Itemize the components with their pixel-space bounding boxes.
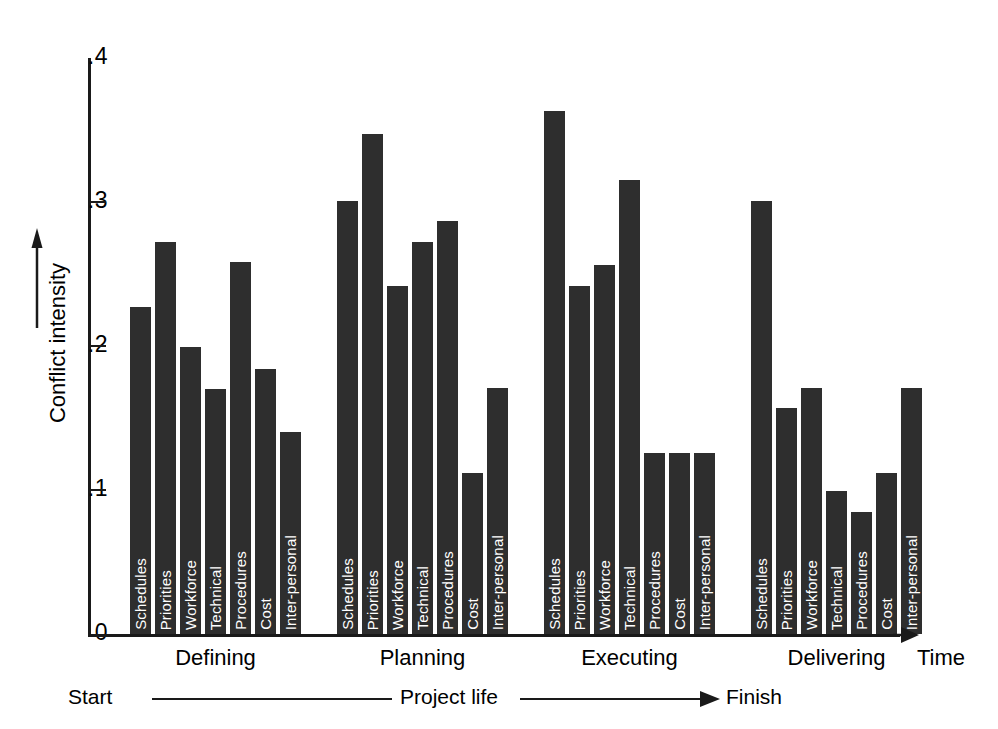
- bar[interactable]: Workforce: [801, 388, 822, 634]
- x-axis-group-label: Executing: [544, 645, 715, 671]
- bar-label: Procedures: [231, 551, 251, 630]
- bar-label: Priorities: [156, 570, 176, 630]
- x-axis-group-label: Defining: [130, 645, 301, 671]
- project-life-band: Start Project life Finish: [0, 685, 998, 729]
- bar-label: Inter-personal: [902, 535, 922, 630]
- y-axis-title: Conflict intensity: [45, 223, 71, 463]
- x-axis-group-label: Planning: [337, 645, 508, 671]
- bar-label: Priorities: [777, 570, 797, 630]
- bar-label: Procedures: [645, 551, 665, 630]
- bar[interactable]: Cost: [462, 473, 483, 634]
- bar-label: Priorities: [570, 570, 590, 630]
- bar[interactable]: Schedules: [751, 201, 772, 634]
- bar-label: Schedules: [545, 558, 565, 630]
- bar[interactable]: Schedules: [337, 201, 358, 634]
- bar[interactable]: Cost: [255, 369, 276, 634]
- bar[interactable]: Schedules: [544, 111, 565, 634]
- footer-middle-label: Project life: [400, 685, 498, 709]
- bar[interactable]: Technical: [412, 242, 433, 634]
- bar[interactable]: Inter-personal: [487, 388, 508, 634]
- bar-label: Technical: [413, 566, 433, 630]
- bar-label: Schedules: [131, 558, 151, 630]
- bar[interactable]: Workforce: [387, 286, 408, 634]
- bar-label: Cost: [670, 598, 690, 630]
- bar-label: Inter-personal: [488, 535, 508, 630]
- bar-label: Schedules: [338, 558, 358, 630]
- bar[interactable]: Technical: [205, 389, 226, 634]
- bar-label: Inter-personal: [281, 535, 301, 630]
- bar-label: Workforce: [181, 560, 201, 630]
- bar[interactable]: Priorities: [362, 134, 383, 634]
- bar[interactable]: Procedures: [437, 221, 458, 634]
- bar[interactable]: Priorities: [776, 408, 797, 634]
- bar[interactable]: Cost: [876, 473, 897, 634]
- bar[interactable]: Procedures: [851, 512, 872, 634]
- conflict-intensity-bar-chart: .4.3.2.10 Conflict intensity SchedulesPr…: [0, 0, 998, 729]
- bar[interactable]: Inter-personal: [901, 388, 922, 634]
- bar-label: Priorities: [363, 570, 383, 630]
- bar-label: Workforce: [388, 560, 408, 630]
- x-axis-line: [88, 634, 900, 637]
- bar[interactable]: Schedules: [130, 307, 151, 634]
- bar[interactable]: Technical: [826, 491, 847, 634]
- bar-label: Cost: [463, 598, 483, 630]
- bar[interactable]: Cost: [669, 453, 690, 634]
- y-axis-up-arrow-icon: [30, 228, 44, 328]
- bar-label: Inter-personal: [695, 535, 715, 630]
- footer-finish-label: Finish: [726, 685, 782, 709]
- bar[interactable]: Priorities: [569, 286, 590, 634]
- x-axis-group-label: Delivering: [751, 645, 922, 671]
- bar-label: Cost: [256, 598, 276, 630]
- plot-area: SchedulesPrioritiesWorkforceTechnicalPro…: [88, 58, 978, 634]
- bar-label: Procedures: [852, 551, 872, 630]
- bar-label: Procedures: [438, 551, 458, 630]
- footer-right-arrow-icon: [696, 688, 720, 710]
- bar-label: Technical: [827, 566, 847, 630]
- footer-rule-right: [520, 698, 700, 700]
- bar-label: Schedules: [752, 558, 772, 630]
- bar-label: Workforce: [802, 560, 822, 630]
- footer-rule-left: [152, 698, 392, 700]
- bar[interactable]: Workforce: [594, 265, 615, 634]
- bar[interactable]: Procedures: [644, 453, 665, 634]
- bar-label: Technical: [620, 566, 640, 630]
- bar[interactable]: Workforce: [180, 347, 201, 634]
- footer-start-label: Start: [68, 685, 112, 709]
- bar-label: Workforce: [595, 560, 615, 630]
- x-axis-right-arrow-icon: [893, 623, 919, 647]
- x-axis-caption: Time: [917, 645, 965, 671]
- bar[interactable]: Priorities: [155, 242, 176, 634]
- bar[interactable]: Inter-personal: [694, 453, 715, 634]
- bar-label: Technical: [206, 566, 226, 630]
- bar[interactable]: Procedures: [230, 262, 251, 634]
- bar[interactable]: Technical: [619, 180, 640, 634]
- bar[interactable]: Inter-personal: [280, 432, 301, 634]
